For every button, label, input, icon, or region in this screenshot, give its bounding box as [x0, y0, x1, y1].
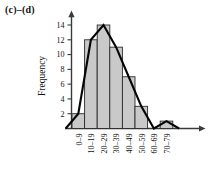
x-category-label: 30–39 [112, 134, 121, 154]
x-category-label: 70–79 [163, 134, 172, 154]
histogram-bar [72, 114, 85, 129]
figure-panel: (c)–(d) 2468101214 0–910–1920–2930–3940–… [0, 0, 220, 170]
histogram-bar [85, 40, 98, 129]
y-tick-label: 2 [61, 110, 65, 119]
y-axis-title: Frequency [37, 56, 47, 96]
y-tick-label: 4 [61, 95, 65, 104]
histogram-bars [72, 25, 173, 129]
x-category-label: 50–59 [138, 134, 147, 154]
y-tick-label: 10 [57, 50, 65, 59]
x-category-label: 10–19 [87, 134, 96, 154]
x-category-label: 40–49 [125, 134, 134, 154]
histogram-bar [97, 25, 110, 129]
histogram-bar [135, 106, 148, 128]
y-tick-label: 12 [57, 36, 65, 45]
y-tick-label: 6 [61, 80, 65, 89]
y-axis-title-text: Frequency [37, 56, 47, 96]
y-axis-ticks: 2468101214 [57, 21, 72, 119]
histogram-frequency-polygon-chart: 2468101214 0–910–1920–2930–3940–4950–596… [0, 0, 220, 170]
x-category-label: 20–29 [100, 134, 109, 154]
y-tick-label: 14 [57, 21, 65, 30]
x-category-label: 60–69 [150, 134, 159, 154]
x-axis-category-labels: 0–910–1920–2930–3940–4950–5960–6970–79 [75, 134, 172, 154]
x-category-label: 0–9 [75, 134, 84, 146]
y-tick-label: 8 [61, 65, 65, 74]
